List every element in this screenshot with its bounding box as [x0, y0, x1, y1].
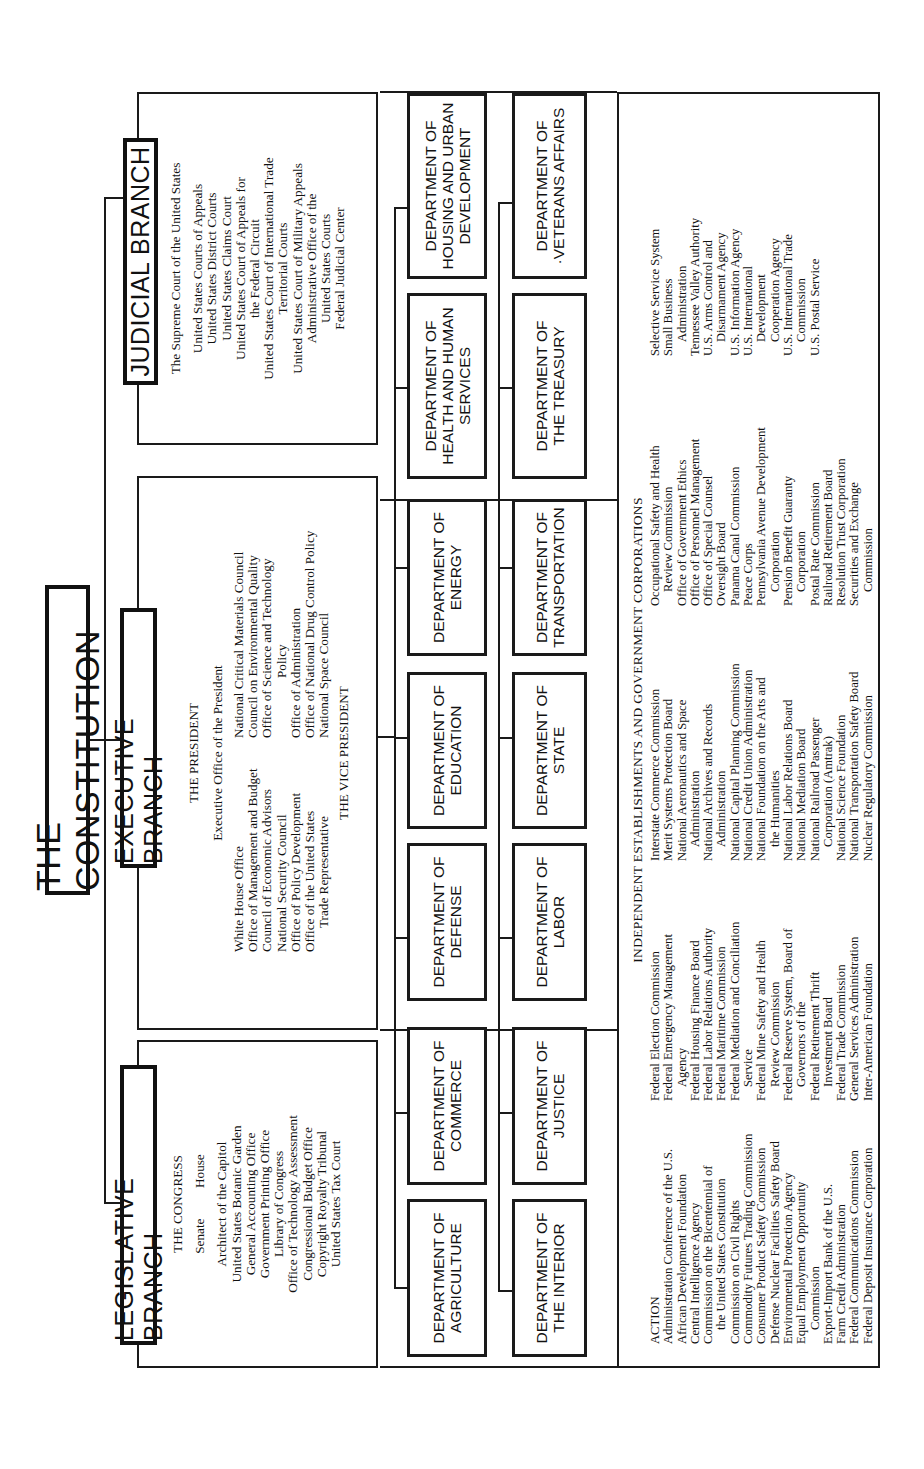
list-item: United States Claims Court — [220, 94, 234, 443]
list-item: Agency — [676, 922, 689, 1101]
list-item: Review Commission — [662, 427, 675, 606]
vice-president-heading: THE VICE PRESIDENT — [337, 478, 351, 1028]
list-item: Commission on Civil Rights — [729, 1134, 742, 1344]
list-item: Central Intelligence Agency — [689, 1134, 702, 1344]
list-item: Investment Board — [822, 922, 835, 1101]
independent-heading: INDEPENDENT ESTABLISHMENTS AND GOVERNMEN… — [631, 94, 644, 1366]
list-item: Cooperation Agency — [769, 218, 782, 356]
list-item: ACTION — [649, 1134, 662, 1344]
list-item: Office of Policy Development — [289, 768, 303, 952]
judicial-branch-label: JUDICIAL BRANCH — [126, 146, 155, 376]
list-item: National Science Foundation — [835, 663, 848, 861]
list-item: Office of Special Counsel — [702, 427, 715, 606]
list-item: Resolution Trust Corporation — [835, 427, 848, 606]
executive-branch-title: EXECUTIVE BRANCH — [120, 608, 157, 868]
list-item: Railroad Retirement Board — [822, 427, 835, 606]
independent-col-3: Interstate Commerce CommissionMerit Syst… — [649, 663, 875, 861]
list-item: General Accounting Office — [244, 1042, 258, 1366]
connector-dept — [498, 202, 512, 204]
dept-labor: DEPARTMENT OF LABOR — [512, 843, 587, 1001]
connector-dept — [394, 567, 408, 569]
list-item: National Labor Relations Board — [782, 663, 795, 861]
dept-treasury: DEPARTMENT OF THE TREASURY — [512, 293, 587, 479]
list-item: Export-Import Bank of the U.S. — [822, 1134, 835, 1344]
list-item: Commission — [809, 1134, 822, 1344]
list-item: Administration Conference of the U.S. — [662, 1134, 675, 1344]
list-item: National Aeronautics and Space — [676, 663, 689, 861]
list-item: U.S. Postal Service — [809, 218, 822, 356]
dept-grid-divider — [380, 1366, 617, 1368]
judicial-content: The Supreme Court of the United States U… — [169, 94, 347, 443]
independent-col-4: Occupational Safety and HealthReview Com… — [649, 427, 875, 606]
list-item: Commodity Futures Trading Commission — [742, 1134, 755, 1344]
connector-dept — [394, 387, 408, 389]
list-item: Federal Housing Finance Board — [689, 922, 702, 1101]
list-item: National Archives and Records — [702, 663, 715, 861]
list-item: Selective Service System — [649, 218, 662, 356]
judicial-panel: The Supreme Court of the United States U… — [137, 92, 378, 445]
list-item: General Services Administration — [848, 922, 861, 1101]
list-item: Architect of the Capitol — [215, 1042, 229, 1366]
list-item: Administration — [676, 218, 689, 356]
dept-commerce: DEPARTMENT OF COMMERCE — [407, 1027, 487, 1185]
list-item: the United States Constitution — [715, 1134, 728, 1344]
dept-justice: DEPARTMENT OF JUSTICE — [512, 1027, 587, 1185]
list-item: U.S. International Trade — [782, 218, 795, 356]
connector-dept-bus-row1 — [394, 209, 396, 1289]
list-item: Securities and Exchange — [848, 427, 861, 606]
list-item: Review Commission — [769, 922, 782, 1101]
list-item: National Mediation Board — [795, 663, 808, 861]
list-item: Federal Mediation and Conciliation — [729, 922, 742, 1101]
congress-chambers: Senate House — [193, 1042, 207, 1366]
dept-agriculture: DEPARTMENT OF AGRICULTURE — [407, 1199, 487, 1357]
connector-dept — [498, 737, 512, 739]
list-item: U.S. International — [742, 218, 755, 356]
dept-veterans-affairs: DEPARTMENT OF ·VETERANS AFFAIRS — [512, 93, 587, 279]
house-label: House — [192, 1154, 207, 1188]
list-item: Nuclear Regulatory Commission — [862, 663, 875, 861]
eop-left-list: White House Office Office of Management … — [232, 768, 331, 952]
list-item: Policy — [275, 531, 289, 738]
list-item: Office of Science and Technology — [260, 531, 274, 738]
list-item: Commission — [795, 218, 808, 356]
list-item: National Railroad Passenger — [809, 663, 822, 861]
list-item: Government Printing Office — [258, 1042, 272, 1366]
president-heading: THE PRESIDENT — [187, 478, 201, 1028]
independent-panel: INDEPENDENT ESTABLISHMENTS AND GOVERNMEN… — [617, 92, 880, 1368]
independent-col-2: Federal Election CommissionFederal Emerg… — [649, 922, 875, 1101]
list-item: U.S. Arms Control and — [702, 218, 715, 356]
list-item: United States Court of International Tra… — [262, 94, 276, 443]
list-item: Small Business — [662, 218, 675, 356]
list-item: Trade Representative — [317, 768, 331, 952]
list-item: Office of Personnel Management — [689, 427, 702, 606]
constitution-title-text: THE CONSTITUTION — [29, 589, 107, 891]
list-item: Federal Maritime Commission — [715, 922, 728, 1101]
list-item: Pennsylvania Avenue Development — [755, 427, 768, 606]
list-item: Office of Government Ethics — [676, 427, 689, 606]
connector-dept — [498, 567, 512, 569]
list-item: Disarmament Agency — [715, 218, 728, 356]
list-item: Congressional Budget Office — [301, 1042, 315, 1366]
list-item: Commission — [862, 427, 875, 606]
list-item: National Critical Materials Council — [232, 531, 246, 738]
list-item: Development — [755, 218, 768, 356]
list-item: Merit Systems Protection Board — [662, 663, 675, 861]
list-item: Tennessee Valley Authority — [689, 218, 702, 356]
list-item: Council on Environmental Quality — [246, 531, 260, 738]
judicial-items: United States Courts of Appeals United S… — [191, 94, 347, 443]
list-item: Federal Deposit Insurance Corporation — [862, 1134, 875, 1344]
list-item: Peace Corps — [742, 427, 755, 606]
judicial-branch-title: JUDICIAL BRANCH — [123, 138, 158, 385]
list-item: Oversight Board — [715, 427, 728, 606]
legislative-items: Architect of the Capitol United States B… — [215, 1042, 343, 1366]
list-item: National Transportation Safety Board — [848, 663, 861, 861]
connector-dept — [498, 937, 512, 939]
list-item: Equal Employment Opportunity — [795, 1134, 808, 1344]
list-item: Office of Management and Budget — [246, 768, 260, 952]
dept-energy: DEPARTMENT OF ENERGY — [407, 499, 487, 656]
legislative-content: THE CONGRESS Senate House Architect of t… — [171, 1042, 343, 1366]
senate-label: Senate — [192, 1219, 207, 1254]
legislative-branch-label: LEGISLATIVE BRANCH — [110, 1069, 168, 1341]
list-item: National Foundation on the Arts and — [755, 663, 768, 861]
list-item: United States Courts — [319, 94, 333, 443]
